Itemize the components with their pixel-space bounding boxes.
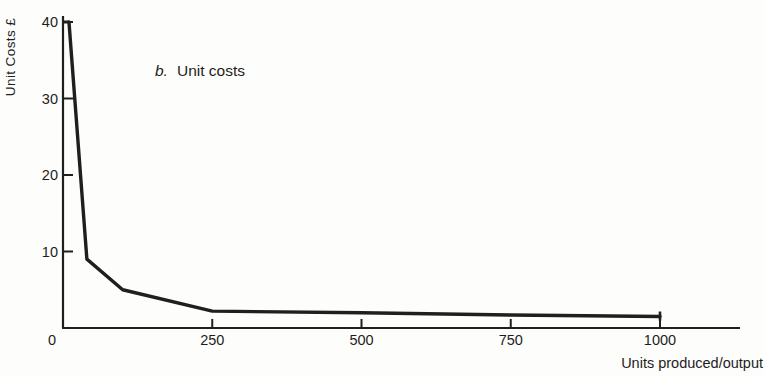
x-axis-label: Units produced/output [621,355,763,371]
y-tick-label: 30 [42,90,58,108]
y-tick-label: 40 [42,13,58,31]
annotation-letter: b. [155,62,168,79]
scanned-chart-page: Unit Costs £ b.Unit costs Units produced… [0,0,764,377]
x-tick-label: 500 [349,331,373,349]
y-axis-label: Unit Costs £ [3,18,18,96]
annotation-text: Unit costs [177,62,245,79]
x-tick-label: 750 [499,331,523,349]
x-tick-label: 250 [200,331,224,349]
plot-canvas [0,0,764,377]
chart-annotation: b.Unit costs [155,62,245,80]
x-tick-label: 0 [48,331,56,349]
y-tick-label: 20 [42,166,58,184]
x-tick-label: 1000 [644,331,676,349]
y-tick-label: 10 [42,243,58,261]
